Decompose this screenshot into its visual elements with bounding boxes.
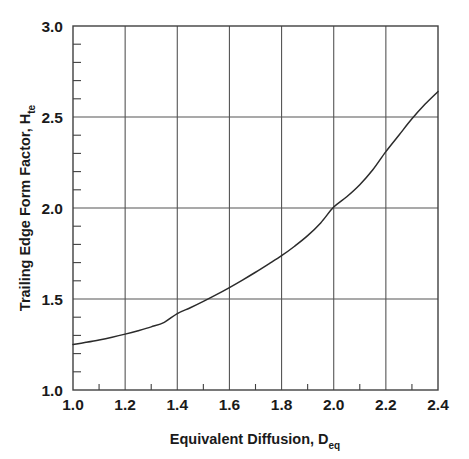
chart-plot-area: 1.01.21.41.61.82.02.22.4 1.01.52.02.53.0…	[0, 0, 469, 459]
svg-text:Trailing Edge Form Factor, Hte: Trailing Edge Form Factor, Hte	[17, 104, 37, 311]
y-tick-label: 2.0	[41, 200, 63, 217]
y-axis-title-text: Trailing Edge Form Factor, H	[17, 114, 33, 311]
x-axis-title-subscript: eq	[329, 440, 341, 451]
x-tick-label: 2.4	[427, 396, 449, 413]
x-axis-title-text: Equivalent Diffusion, D	[170, 431, 329, 447]
data-series-line	[73, 92, 438, 345]
y-tick-label: 2.5	[41, 109, 63, 126]
chart-figure: 1.01.21.41.61.82.02.22.4 1.01.52.02.53.0…	[0, 0, 469, 459]
x-tick-label: 1.0	[62, 396, 84, 413]
y-tick-label: 3.0	[41, 18, 63, 35]
y-axis-tick-labels: 1.01.52.02.53.0	[41, 18, 63, 399]
x-axis-minor-ticks	[99, 384, 412, 390]
x-axis-tick-labels: 1.01.21.41.61.82.02.22.4	[62, 396, 449, 413]
x-tick-label: 1.2	[114, 396, 136, 413]
svg-text:Equivalent Diffusion, Deq: Equivalent Diffusion, Deq	[170, 431, 340, 451]
y-tick-label: 1.5	[41, 291, 63, 308]
y-tick-label: 1.0	[41, 382, 63, 399]
x-tick-label: 1.6	[219, 396, 241, 413]
x-tick-label: 1.8	[271, 396, 293, 413]
x-axis-title: Equivalent Diffusion, Deq	[170, 431, 340, 451]
y-axis-title-subscript: te	[26, 104, 37, 113]
x-tick-label: 2.0	[323, 396, 345, 413]
x-tick-label: 2.2	[375, 396, 397, 413]
y-axis-title: Trailing Edge Form Factor, Hte	[17, 104, 37, 311]
x-tick-label: 1.4	[167, 396, 189, 413]
